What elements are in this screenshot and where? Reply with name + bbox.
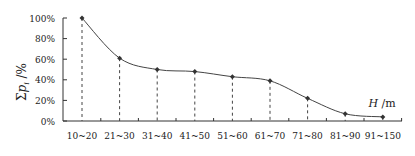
x-tick-label: 61~70	[255, 131, 286, 141]
drop-lines	[82, 18, 383, 121]
data-point-marker	[343, 111, 348, 116]
y-tick-label: 60%	[35, 55, 55, 65]
x-tick-label: 91~150	[365, 131, 401, 141]
x-axis-label: H /m	[367, 97, 396, 110]
y-tick-label: 0%	[41, 117, 56, 127]
data-point-marker	[305, 96, 310, 101]
y-axis-ticks: 0%20%40%60%80%100%	[29, 14, 67, 127]
data-point-marker	[230, 74, 235, 79]
y-axis-label: Σpi /%	[15, 63, 31, 101]
x-tick-label: 71~80	[292, 131, 323, 141]
x-tick-label: 41~50	[180, 131, 211, 141]
y-tick-label: 20%	[35, 96, 55, 106]
data-points	[80, 16, 386, 120]
x-tick-label: 81~90	[330, 131, 361, 141]
y-tick-label: 40%	[35, 75, 55, 85]
x-tick-label: 31~40	[142, 131, 173, 141]
data-point-marker	[192, 69, 197, 74]
data-point-marker	[380, 114, 385, 119]
x-tick-label: 10~20	[67, 131, 98, 141]
cumulative-line-chart: 0%20%40%60%80%100% 10~2021~3031~4041~505…	[0, 0, 415, 156]
x-tick-label: 21~30	[104, 131, 135, 141]
x-axis-tick-labels: 10~2021~3031~4041~5051~6061~7071~8081~90…	[67, 131, 401, 141]
data-point-marker	[155, 67, 160, 72]
x-tick-label: 51~60	[217, 131, 248, 141]
data-point-marker	[268, 78, 273, 83]
y-tick-label: 100%	[29, 14, 55, 24]
y-tick-label: 80%	[35, 34, 55, 44]
